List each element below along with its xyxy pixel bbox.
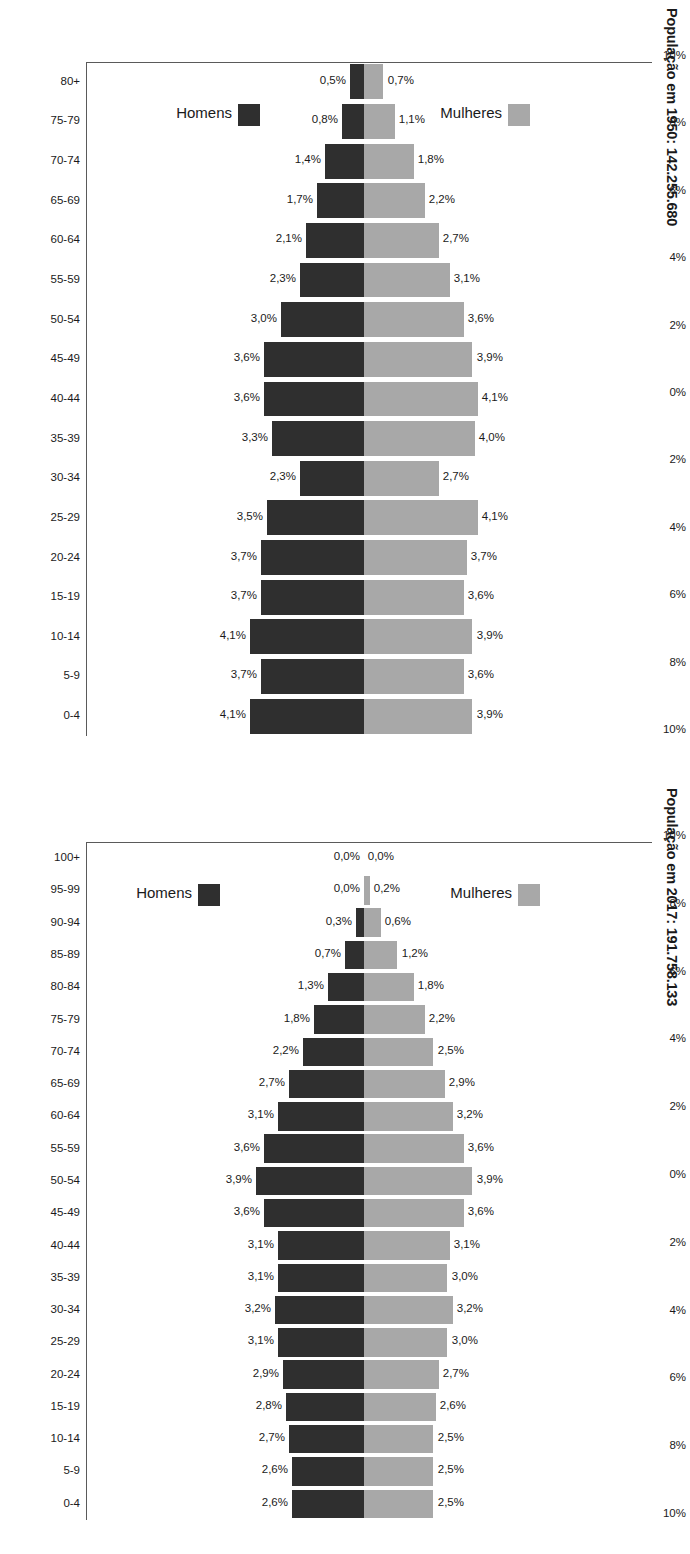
bar-value-label-women: 1,1% — [399, 114, 425, 126]
bar-men — [292, 1457, 364, 1485]
category-label: 25-29 — [51, 1336, 80, 1348]
bar-value-label-women: 3,6% — [468, 590, 494, 602]
category-label-cell: 95-99 — [8, 874, 84, 906]
axis-tick-label: 8% — [669, 656, 686, 668]
bar-wrap — [86, 580, 642, 615]
bar-group: 1,2%0,7% — [86, 939, 642, 971]
category-label-cell: 60-64 — [8, 221, 84, 261]
bar-men — [350, 64, 364, 99]
bar-value-label-men: 2,2% — [273, 1045, 299, 1057]
bar-wrap — [86, 659, 642, 694]
category-label: 60-64 — [51, 1110, 80, 1122]
plot-area-1950: 0,7%0,5%1,1%0,8%1,8%1,4%2,2%1,7%2,7%2,1%… — [86, 62, 642, 736]
category-label-cell: 90-94 — [8, 907, 84, 939]
bar-value-label-women: 3,6% — [468, 1142, 494, 1154]
bar-group: 0,6%0,3% — [86, 907, 642, 939]
bar-wrap — [86, 1134, 642, 1162]
bar-value-label-women: 1,2% — [401, 948, 427, 960]
bar-wrap — [86, 500, 642, 535]
bar-value-label-men: 3,1% — [248, 1335, 274, 1347]
bar-wrap — [86, 421, 642, 456]
bar-wrap — [86, 1102, 642, 1130]
bar-wrap — [86, 183, 642, 218]
axis-tick-label: 2% — [669, 319, 686, 331]
category-label-cell: 5-9 — [8, 657, 84, 697]
bar-women — [364, 1102, 453, 1130]
category-label: 35-39 — [51, 1272, 80, 1284]
bar-women — [364, 619, 472, 654]
bar-value-label-women: 2,7% — [443, 1368, 469, 1380]
category-label-cell: 50-54 — [8, 1165, 84, 1197]
axis-tick-label: 4% — [669, 251, 686, 263]
bar-women — [364, 659, 464, 694]
category-label-cell: 100+ — [8, 842, 84, 874]
bar-group: 2,5%2,6% — [86, 1455, 642, 1487]
bar-women — [364, 1393, 436, 1421]
category-label: 45-49 — [51, 353, 80, 365]
bar-men — [325, 144, 364, 179]
bar-men — [256, 1167, 364, 1195]
bar-value-label-women: 3,0% — [451, 1335, 477, 1347]
bar-women — [364, 1231, 450, 1259]
bar-value-label-women: 4,1% — [482, 511, 508, 523]
bar-women — [364, 1038, 434, 1066]
axis-tick-label: 2% — [669, 1236, 686, 1248]
category-labels-1950: 80+75-7970-7465-6960-6455-5950-5445-4940… — [8, 62, 84, 736]
bar-women — [364, 540, 467, 575]
bar-value-label-men: 3,1% — [248, 1239, 274, 1251]
bar-value-label-men: 2,1% — [275, 233, 301, 245]
category-label-cell: 35-39 — [8, 419, 84, 459]
axis-tick-label: 8% — [669, 116, 686, 128]
bar-women — [364, 64, 383, 99]
bar-group: 3,2%3,2% — [86, 1294, 642, 1326]
bar-women — [364, 876, 370, 904]
bar-men — [289, 1070, 364, 1098]
bar-wrap — [86, 973, 642, 1001]
axis-tick-label: 6% — [669, 1371, 686, 1383]
category-label: 15-19 — [51, 1401, 80, 1413]
bar-men — [289, 1425, 364, 1453]
bar-women — [364, 1425, 434, 1453]
category-label: 5-9 — [63, 1465, 80, 1477]
bar-value-label-women: 3,6% — [468, 1206, 494, 1218]
category-label-cell: 40-44 — [8, 1229, 84, 1261]
category-label-cell: 75-79 — [8, 102, 84, 142]
category-label-cell: 65-69 — [8, 181, 84, 221]
bar-value-label-men: 2,6% — [262, 1464, 288, 1476]
bar-wrap — [86, 223, 642, 258]
category-label-cell: 70-74 — [8, 1036, 84, 1068]
bar-men — [261, 659, 364, 694]
category-label: 85-89 — [51, 949, 80, 961]
category-label: 10-14 — [51, 631, 80, 643]
bar-wrap — [86, 342, 642, 377]
bar-wrap — [86, 941, 642, 969]
category-label-cell: 50-54 — [8, 300, 84, 340]
bar-women — [364, 144, 414, 179]
axis-tick-label: 10% — [663, 1507, 686, 1519]
bar-men — [267, 500, 364, 535]
bar-value-label-women: 2,9% — [449, 1077, 475, 1089]
bar-value-label-men: 2,3% — [270, 471, 296, 483]
bar-women — [364, 183, 425, 218]
bar-value-label-men: 4,1% — [220, 630, 246, 642]
category-label: 60-64 — [51, 234, 80, 246]
bar-value-label-women: 3,1% — [454, 1239, 480, 1251]
axis-tick-labels-1950: 10%8%6%4%2%0%2%4%6%8%10% — [646, 62, 686, 736]
category-label: 70-74 — [51, 1046, 80, 1058]
bar-men — [250, 699, 364, 734]
bar-value-label-men: 3,6% — [234, 392, 260, 404]
bar-men — [300, 461, 364, 496]
bar-value-label-women: 1,8% — [418, 980, 444, 992]
category-label: 40-44 — [51, 393, 80, 405]
bar-group: 4,1%3,6% — [86, 379, 642, 419]
bar-value-label-women: 2,6% — [440, 1400, 466, 1412]
category-label-cell: 45-49 — [8, 339, 84, 379]
bar-group: 4,0%3,3% — [86, 419, 642, 459]
bar-group: 3,0%3,1% — [86, 1262, 642, 1294]
bar-men — [314, 1005, 364, 1033]
bar-group: 0,0%0,0% — [86, 842, 642, 874]
bar-value-label-women: 4,0% — [479, 432, 505, 444]
category-label: 80-84 — [51, 981, 80, 993]
bar-men — [264, 382, 364, 417]
bar-group: 2,7%2,3% — [86, 458, 642, 498]
